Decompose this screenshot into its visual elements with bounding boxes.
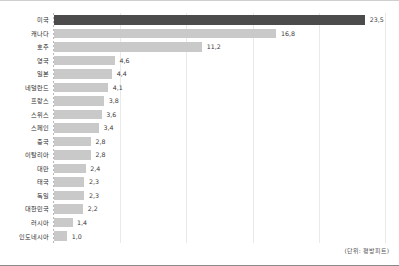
bar-value-label: 1,0 xyxy=(72,233,82,240)
category-label: 태국 xyxy=(0,178,49,185)
category-label: 호주 xyxy=(0,43,49,50)
bar-value-label: 3,8 xyxy=(109,97,119,104)
bar[interactable] xyxy=(54,83,108,93)
bar[interactable] xyxy=(54,164,86,174)
category-label: 프랑스 xyxy=(0,97,49,104)
category-label: 이탈리아 xyxy=(0,151,49,158)
category-label: 캐나다 xyxy=(0,30,49,37)
bar-wrapper: 2,3 xyxy=(54,189,399,203)
bar-wrapper: 3,6 xyxy=(54,108,399,122)
bar-row[interactable]: 이탈리아2,8 xyxy=(0,148,399,162)
bar[interactable] xyxy=(54,29,276,39)
bar[interactable] xyxy=(54,96,104,106)
bar-wrapper: 1,0 xyxy=(54,229,399,243)
bar-wrapper: 4,4 xyxy=(54,67,399,81)
bar-row[interactable]: 영국4,6 xyxy=(0,54,399,68)
bar-wrapper: 23,5 xyxy=(54,13,399,27)
bar-value-label: 23,5 xyxy=(370,16,384,23)
bar-wrapper: 2,4 xyxy=(54,162,399,176)
category-label: 러시아 xyxy=(0,219,49,226)
bar-wrapper: 4,6 xyxy=(54,54,399,68)
bar-row[interactable]: 러시아1,4 xyxy=(0,216,399,230)
category-label: 인도네시아 xyxy=(0,233,49,240)
bar-wrapper: 1,4 xyxy=(54,216,399,230)
bar-row[interactable]: 미국23,5 xyxy=(0,13,399,27)
bar-value-label: 2,4 xyxy=(90,165,100,172)
unit-note: (단위: 평방피트) xyxy=(344,246,389,255)
bar-row[interactable]: 스페인3,4 xyxy=(0,121,399,135)
bar[interactable] xyxy=(54,69,112,79)
bar-value-label: 2,2 xyxy=(88,205,98,212)
bar-wrapper: 2,8 xyxy=(54,135,399,149)
bar-value-label: 2,3 xyxy=(89,192,99,199)
bar-rows: 미국23,5캐나다16,8호주11,2영국4,6일본4,4네덜란드4,1프랑스3… xyxy=(0,13,399,243)
bar-row[interactable]: 인도네시아1,0 xyxy=(0,229,399,243)
bar[interactable] xyxy=(54,204,83,214)
bar-wrapper: 3,8 xyxy=(54,94,399,108)
bar-row[interactable]: 일본4,4 xyxy=(0,67,399,81)
bar-value-label: 2,3 xyxy=(89,178,99,185)
bar-value-label: 2,8 xyxy=(96,138,106,145)
category-label: 독일 xyxy=(0,192,49,199)
bar-value-label: 16,8 xyxy=(281,30,295,37)
bar-wrapper: 3,4 xyxy=(54,121,399,135)
category-label: 미국 xyxy=(0,16,49,23)
bar[interactable] xyxy=(54,137,91,147)
bar-chart-figure: 미국23,5캐나다16,8호주11,2영국4,6일본4,4네덜란드4,1프랑스3… xyxy=(0,0,399,266)
category-label: 대한민국 xyxy=(0,205,49,212)
bar-row[interactable]: 독일2,3 xyxy=(0,189,399,203)
bar-value-label: 3,4 xyxy=(104,124,114,131)
bar-row[interactable]: 캐나다16,8 xyxy=(0,27,399,41)
bar-wrapper: 4,1 xyxy=(54,81,399,95)
bar-row[interactable]: 중국2,8 xyxy=(0,135,399,149)
bar[interactable] xyxy=(54,177,84,187)
bar-row[interactable]: 네덜란드4,1 xyxy=(0,81,399,95)
category-label: 스위스 xyxy=(0,111,49,118)
bar[interactable] xyxy=(54,15,365,25)
bar-value-label: 4,4 xyxy=(117,70,127,77)
bar[interactable] xyxy=(54,231,67,241)
bar-row[interactable]: 스위스3,6 xyxy=(0,108,399,122)
bar-value-label: 1,4 xyxy=(77,219,87,226)
bar[interactable] xyxy=(54,110,102,120)
bar[interactable] xyxy=(54,123,99,133)
bar-wrapper: 11,2 xyxy=(54,40,399,54)
category-label: 일본 xyxy=(0,70,49,77)
bar-value-label: 4,6 xyxy=(119,57,129,64)
bar-wrapper: 2,2 xyxy=(54,202,399,216)
category-label: 대만 xyxy=(0,165,49,172)
category-label: 영국 xyxy=(0,57,49,64)
bar-wrapper: 16,8 xyxy=(54,27,399,41)
bar-value-label: 11,2 xyxy=(207,43,221,50)
category-label: 중국 xyxy=(0,138,49,145)
bar[interactable] xyxy=(54,218,73,228)
category-label: 스페인 xyxy=(0,124,49,131)
bar-value-label: 4,1 xyxy=(113,84,123,91)
bar-row[interactable]: 대한민국2,2 xyxy=(0,202,399,216)
bar-value-label: 2,8 xyxy=(96,151,106,158)
bar-wrapper: 2,3 xyxy=(54,175,399,189)
bar-row[interactable]: 대만2,4 xyxy=(0,162,399,176)
bar[interactable] xyxy=(54,191,84,201)
bar-row[interactable]: 태국2,3 xyxy=(0,175,399,189)
bar-row[interactable]: 프랑스3,8 xyxy=(0,94,399,108)
bar[interactable] xyxy=(54,150,91,160)
bar-wrapper: 2,8 xyxy=(54,148,399,162)
category-label: 네덜란드 xyxy=(0,84,49,91)
bar-row[interactable]: 호주11,2 xyxy=(0,40,399,54)
bar[interactable] xyxy=(54,56,115,66)
bar-value-label: 3,6 xyxy=(106,111,116,118)
bar[interactable] xyxy=(54,42,202,52)
